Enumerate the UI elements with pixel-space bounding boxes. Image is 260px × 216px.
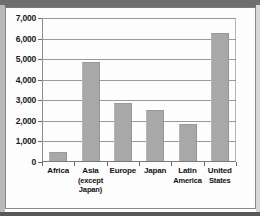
y-tick-label: 0 — [31, 157, 36, 167]
plot-border — [42, 18, 236, 162]
gridline — [42, 100, 236, 101]
x-tick-label: LatinAmerica — [171, 166, 203, 185]
bar — [49, 152, 67, 161]
frame-right-edge — [256, 5, 260, 213]
y-tickmark — [38, 100, 42, 101]
y-tick-label: 7,000 — [16, 13, 36, 23]
x-tick-label-line: Asia — [74, 166, 106, 176]
y-tickmark — [38, 80, 42, 81]
x-tick-label-line: America — [171, 176, 203, 186]
x-tick-label-line: States — [204, 176, 236, 186]
gridline — [42, 18, 236, 19]
y-tick-label: 2,000 — [16, 116, 36, 126]
y-tickmark — [38, 121, 42, 122]
y-tick-label: 1,000 — [16, 136, 36, 146]
bar — [211, 33, 229, 161]
x-tick-label-line: (except — [74, 176, 106, 186]
chart-figure: 01,0002,0003,0004,0005,0006,0007,000 Afr… — [0, 0, 260, 216]
x-tick-label: Africa — [42, 166, 74, 176]
gridline — [42, 59, 236, 60]
frame-top-edge — [0, 0, 260, 7]
x-axis-tick-labels: AfricaAsia(exceptJapan)EuropeJapanLatinA… — [42, 166, 236, 210]
y-tickmark — [38, 39, 42, 40]
bar — [179, 124, 197, 161]
x-tick-label: UnitedStates — [204, 166, 236, 185]
x-tick-label: Europe — [107, 166, 139, 176]
frame-bottom-edge — [0, 212, 260, 216]
bar — [82, 62, 100, 161]
bar — [114, 103, 132, 161]
y-tick-label: 5,000 — [16, 54, 36, 64]
y-axis-tick-labels: 01,0002,0003,0004,0005,0006,0007,000 — [0, 18, 38, 162]
y-tick-label: 6,000 — [16, 34, 36, 44]
y-tickmark — [38, 18, 42, 19]
x-tick-label: Japan — [139, 166, 171, 176]
bar — [146, 110, 164, 161]
plot-area — [42, 18, 236, 162]
gridline — [42, 141, 236, 142]
x-tick-label-line: Latin — [171, 166, 203, 176]
x-tick-label: Asia(exceptJapan) — [74, 166, 106, 195]
x-tick-label-line: United — [204, 166, 236, 176]
y-tick-label: 4,000 — [16, 75, 36, 85]
y-tickmark — [38, 59, 42, 60]
gridline — [42, 39, 236, 40]
y-tickmark — [38, 141, 42, 142]
y-tick-label: 3,000 — [16, 95, 36, 105]
gridline — [42, 121, 236, 122]
x-tick-label-line: Europe — [107, 166, 139, 176]
x-tick-label-line: Japan) — [74, 185, 106, 195]
gridline — [42, 80, 236, 81]
x-tick-label-line: Africa — [42, 166, 74, 176]
x-tickmark — [236, 162, 237, 166]
x-tick-label-line: Japan — [139, 166, 171, 176]
